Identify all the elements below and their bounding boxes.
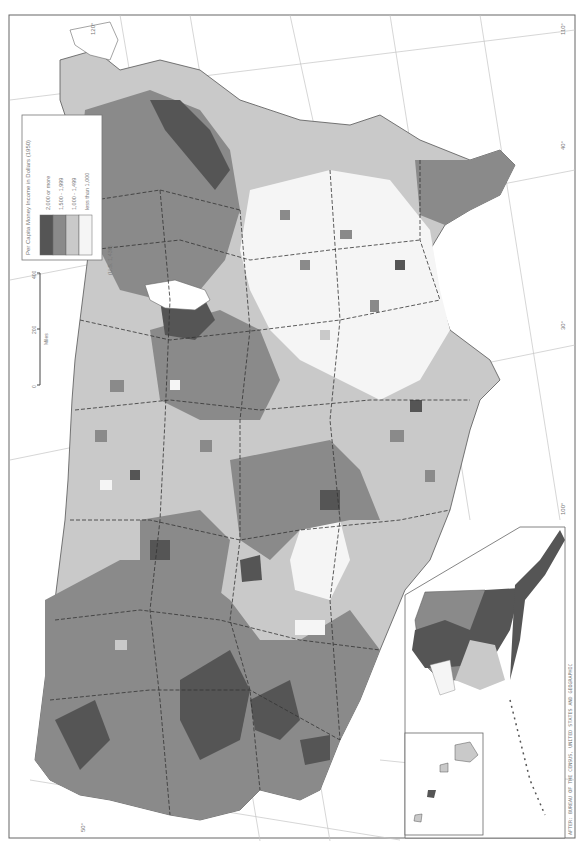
scale-tick-400: 400 xyxy=(31,270,37,279)
scale-tick-200: 200 xyxy=(31,325,37,334)
scale-tick-0: 0 xyxy=(31,385,37,388)
source-credit: AFTER: BUREAU OF THE CENSUS, UNITED STAT… xyxy=(567,663,573,835)
legend-swatch-2000 xyxy=(40,215,53,255)
hawaii-kauai xyxy=(414,814,422,822)
region-high-income-block-3 xyxy=(300,735,330,765)
svg-text:120°: 120° xyxy=(90,22,96,35)
svg-text:50°: 50° xyxy=(80,822,86,832)
svg-text:40°: 40° xyxy=(560,140,566,150)
legend: Per Capita Money Income in Dollars (1950… xyxy=(22,115,102,260)
svg-text:110°: 110° xyxy=(560,22,566,35)
legend-label-1500: 1,500 - 1,999 xyxy=(58,178,64,210)
legend-title: Per Capita Money Income in Dollars (1950… xyxy=(25,140,31,255)
legend-label-2000: 2,000 or more xyxy=(45,176,51,210)
svg-text:30°: 30° xyxy=(560,320,566,330)
legend-label-1000: 1,000 - 1,499 xyxy=(71,178,77,210)
national-average-note: (U.S. 1,436) xyxy=(107,245,113,275)
legend-swatch-1500 xyxy=(53,215,66,255)
svg-text:100°: 100° xyxy=(560,502,566,515)
scale-unit: Miles xyxy=(43,333,49,345)
legend-swatch-1000 xyxy=(66,215,79,255)
legend-label-0: less than 1,000 xyxy=(84,173,90,210)
region-high-income-block-1 xyxy=(150,540,170,560)
choropleth-map: Per Capita Money Income in Dollars (1950… xyxy=(0,0,580,841)
legend-swatch-0 xyxy=(79,215,92,255)
